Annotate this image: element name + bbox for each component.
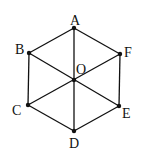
label-e: E bbox=[122, 106, 131, 121]
label-c: C bbox=[12, 103, 21, 118]
segment-cd bbox=[28, 105, 74, 131]
point-d bbox=[72, 129, 76, 133]
label-o: O bbox=[76, 62, 86, 77]
segment-bc bbox=[28, 53, 29, 105]
segment-de bbox=[74, 106, 119, 131]
segment-ef bbox=[119, 54, 120, 106]
point-o bbox=[72, 78, 76, 82]
point-b bbox=[27, 51, 31, 55]
point-e bbox=[117, 104, 121, 108]
label-f: F bbox=[124, 45, 132, 60]
label-d: D bbox=[69, 136, 79, 151]
segment-ab bbox=[29, 28, 74, 53]
label-b: B bbox=[15, 42, 24, 57]
point-f bbox=[118, 52, 122, 56]
label-a: A bbox=[70, 13, 81, 28]
point-c bbox=[26, 103, 30, 107]
hexagon-diagram: A B C D E F O bbox=[0, 0, 143, 159]
segment-fa bbox=[74, 28, 120, 54]
